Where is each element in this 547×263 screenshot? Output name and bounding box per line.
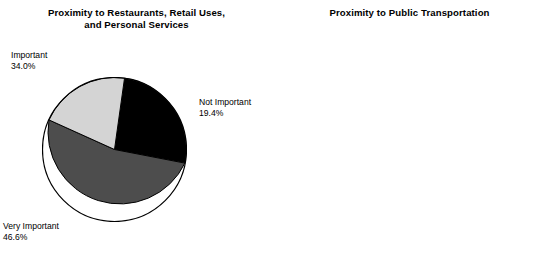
- pie-label-not-important-value: 19.4%: [199, 108, 251, 119]
- pie-label-very-important-name: Very Important: [3, 221, 59, 231]
- pie-label-very-important-value: 46.6%: [3, 232, 59, 243]
- chart-title-line-1: Proximity to Public Transportation: [329, 7, 489, 18]
- pie-svg-restaurants: [42, 77, 187, 222]
- chart-title-line-2: and Personal Services: [84, 19, 189, 30]
- chart-title-restaurants: Proximity to Restaurants, Retail Uses, a…: [0, 7, 273, 32]
- pie-chart-panel-public-transportation: Proximity to Public Transportation Impor…: [273, 0, 546, 263]
- pie-label-important-restaurants: Important 34.0%: [11, 50, 47, 71]
- chart-title-public-transportation: Proximity to Public Transportation: [273, 7, 546, 19]
- pie-chart-panel-restaurants: Proximity to Restaurants, Retail Uses, a…: [0, 0, 273, 263]
- pie-label-not-important-restaurants: Not Important 19.4%: [199, 97, 251, 118]
- pie-label-not-important-name: Not Important: [199, 97, 251, 107]
- pie-graphic-restaurants: [42, 77, 187, 222]
- chart-title-line-1: Proximity to Restaurants, Retail Uses,: [48, 7, 225, 18]
- pie-label-important-value: 34.0%: [11, 61, 47, 72]
- pie-label-important-name: Important: [11, 50, 47, 60]
- pie-label-very-important-restaurants: Very Important 46.6%: [3, 221, 59, 242]
- pie-slice-not-important: [115, 78, 187, 163]
